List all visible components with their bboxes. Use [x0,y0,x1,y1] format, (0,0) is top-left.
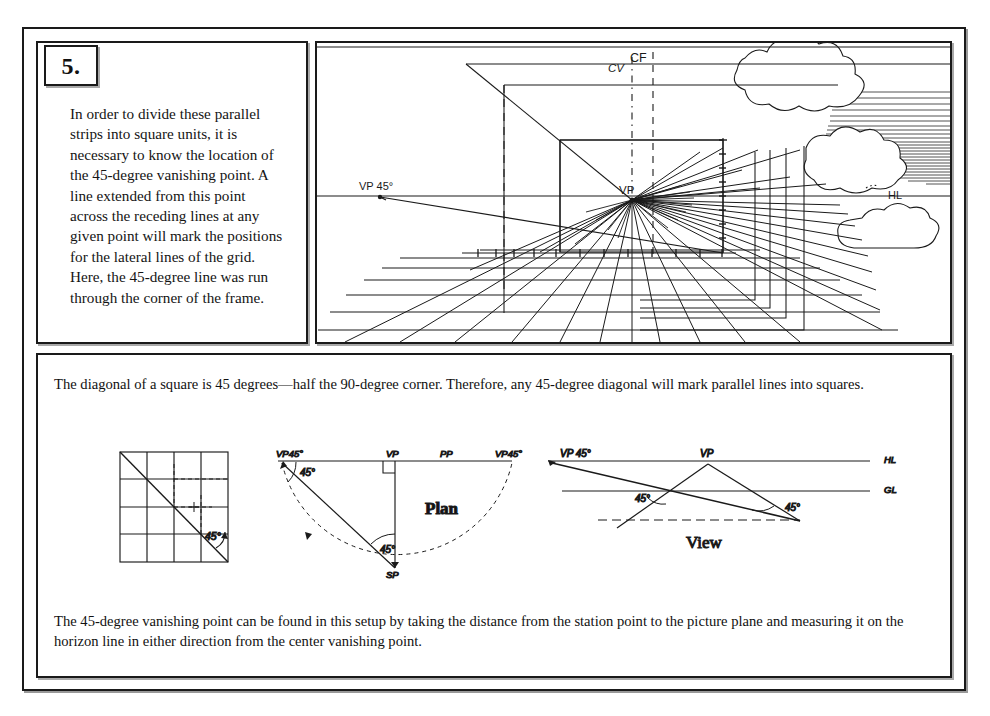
plan-hypotenuse [282,463,395,568]
square-angle-arrow [221,532,228,539]
plan-sweep-arc [282,463,512,555]
view-label-vp45: VP 45° [560,448,591,459]
plan-angle-top: 45° [300,467,315,478]
lower-diagrams: 45° VP45° [0,0,990,716]
plan-label-vp45-left: VP45° [276,448,303,459]
illustration-page: 5. In order to divide these parallel str… [0,0,990,716]
view-angle-left: 45° [635,493,650,504]
plan-arc-arrow-mid [305,532,312,540]
view-angle-arc-left [648,498,666,504]
step-number-box: 5. [44,45,98,86]
square-grid-diagram [120,452,228,562]
plan-sp-angle-arc [371,534,395,544]
plan-angle-bottom: 45° [380,544,395,555]
plan-right-angle-mark [383,461,395,473]
square-angle-label: 45° [205,530,221,542]
square-cross-marks [189,502,199,512]
view-label-gl: GL [884,484,897,495]
view-label-hl: HL [884,454,896,465]
view-label-vp: VP [700,448,714,459]
plan-arc-arrow-left [280,461,287,469]
step-number: 5. [62,54,81,78]
plan-title: Plan [425,499,459,518]
plan-label-vp: VP [386,448,399,459]
plan-label-sp: SP [386,569,399,580]
plan-label-pp: PP [440,448,453,459]
plan-label-vp45-right: VP45° [495,448,522,459]
view-vp45-line [552,463,800,521]
view-diagram [548,460,870,528]
view-angle-right: 45° [785,502,800,513]
view-title: View [686,533,723,552]
